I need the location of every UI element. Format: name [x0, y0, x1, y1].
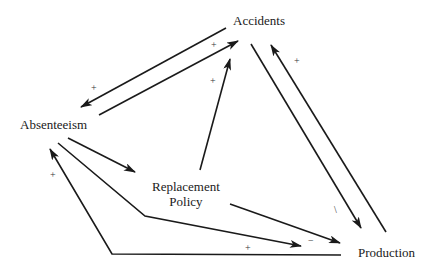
node-production: Production — [358, 245, 415, 260]
link-replacement-to-production — [230, 204, 340, 243]
node-accidents: Accidents — [233, 13, 285, 28]
sign-production-to-accidents: + — [294, 56, 300, 66]
replacement-policy-line2: Policy — [152, 194, 220, 209]
link-accidents-to-production — [251, 44, 361, 228]
sign-absenteeism-to-production: + — [245, 243, 251, 253]
sign-production-to-absenteeism: + — [50, 170, 56, 180]
sign-replacement-to-production: − — [308, 236, 314, 246]
replacement-policy-line1: Replacement — [152, 179, 220, 194]
sign-accidents-to-absenteeism: + — [91, 83, 97, 93]
node-replacement-policy: Replacement Policy — [152, 179, 220, 209]
sign-accidents-to-production: \ — [334, 205, 337, 215]
link-accidents-to-absenteeism — [81, 28, 226, 107]
sign-absenteeism-to-accidents: + — [211, 40, 217, 50]
diagram-arrows — [0, 0, 436, 271]
link-absenteeism-to-replacement — [68, 138, 135, 172]
node-absenteeism: Absenteeism — [20, 117, 87, 132]
sign-replacement-to-accidents: + — [210, 76, 216, 86]
link-production-to-accidents — [271, 45, 386, 232]
causal-loop-diagram: Accidents Absenteeism Replacement Policy… — [0, 0, 436, 271]
